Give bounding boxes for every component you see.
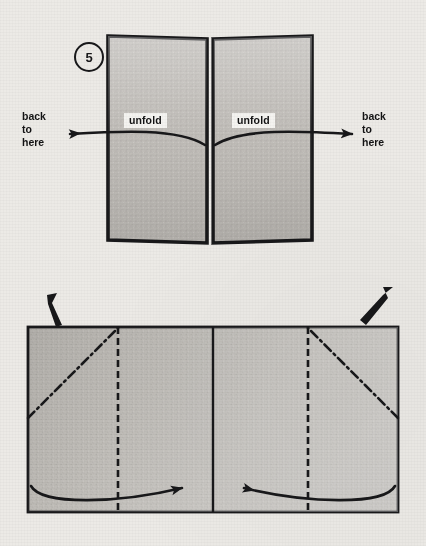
back-to-here-line: back	[22, 110, 46, 123]
back-to-here-line: to	[22, 123, 46, 136]
step-number-badge-5: 5	[74, 42, 104, 72]
step-6-drawing	[0, 273, 426, 546]
back-to-here-note-right: back to here	[362, 110, 386, 148]
figure-step-5: 5 unfold unfold back to here back to her…	[0, 0, 426, 273]
back-to-here-line: here	[362, 136, 386, 149]
pointer-arrow-left	[47, 293, 62, 327]
back-to-here-note-left: back to here	[22, 110, 46, 148]
figure-step-6: 6 fold top layer to middle fold top laye…	[0, 273, 426, 546]
unfold-label-right: unfold	[232, 113, 275, 128]
back-to-here-line: back	[362, 110, 386, 123]
back-to-here-line: to	[362, 123, 386, 136]
pointer-arrow-right	[360, 287, 393, 325]
unfold-label-left: unfold	[124, 113, 167, 128]
back-to-here-line: here	[22, 136, 46, 149]
